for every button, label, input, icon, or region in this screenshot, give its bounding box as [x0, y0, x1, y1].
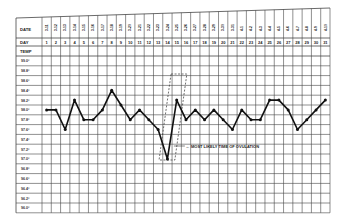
temp-tick-label: 99.0°: [21, 59, 30, 63]
data-point: [259, 118, 262, 121]
date-label: 3-17: [101, 24, 105, 31]
day-row-label: DAY: [20, 40, 29, 45]
date-label: 4-5: [277, 26, 281, 31]
date-label: 3-18: [110, 24, 114, 31]
temp-tick-label: 98.4°: [21, 89, 30, 93]
date-label: 3-25: [175, 24, 179, 31]
data-point: [82, 118, 85, 121]
data-point: [147, 118, 150, 121]
day-label: 19: [212, 40, 217, 45]
date-label: 3-16: [91, 24, 95, 31]
date-label: 3-29: [212, 24, 216, 31]
date-label: 3-13: [63, 24, 67, 31]
temp-tick-label: 96.2°: [21, 197, 30, 201]
day-label: 22: [240, 40, 245, 45]
ovulation-label: ← MOST LIKELY TIME OF OVULATION: [186, 144, 259, 149]
day-label: 8: [111, 40, 114, 45]
date-label: 3-27: [193, 24, 197, 31]
date-label: 4-4: [268, 26, 272, 31]
data-point: [268, 99, 271, 102]
temp-tick-label: 97.4°: [21, 138, 30, 142]
date-label: 3-20: [128, 24, 132, 31]
day-label: 28: [295, 40, 300, 45]
data-point: [203, 118, 206, 121]
day-label: 31: [323, 40, 328, 45]
day-label: 11: [137, 40, 142, 45]
temp-tick-label: 97.0°: [21, 157, 30, 161]
date-label: 3-30: [221, 24, 225, 31]
date-label: 4-7: [296, 26, 300, 31]
day-label: 3: [64, 40, 67, 45]
day-label: 21: [230, 40, 235, 45]
day-label: 17: [193, 40, 198, 45]
day-label: 25: [267, 40, 272, 45]
data-point: [92, 118, 95, 121]
date-label: 4-6: [286, 26, 290, 31]
date-label: 3-11: [45, 24, 49, 31]
day-label: 14: [165, 40, 170, 45]
day-label: 2: [55, 40, 58, 45]
temp-tick-label: 96.0°: [21, 206, 30, 210]
day-label: 27: [286, 40, 291, 45]
data-point: [194, 108, 197, 111]
day-label: 6: [92, 40, 95, 45]
date-label: 4-2: [249, 26, 253, 31]
data-point: [315, 108, 318, 111]
date-label: 4-3: [259, 26, 263, 31]
chart-grid: [16, 8, 330, 213]
date-label: 3-19: [119, 24, 123, 31]
day-label: 1: [46, 40, 49, 45]
date-label: 3-22: [147, 24, 151, 31]
data-point: [324, 99, 327, 102]
data-point: [222, 118, 225, 121]
temp-row-label: TEMP: [20, 49, 32, 54]
data-point: [54, 108, 57, 111]
temp-tick-label: 98.2°: [21, 99, 30, 103]
day-label: 16: [184, 40, 189, 45]
data-point: [138, 108, 141, 111]
data-point: [305, 118, 308, 121]
data-point: [110, 89, 113, 92]
day-label: 4: [73, 40, 76, 45]
date-label: 4-8: [305, 26, 309, 31]
temp-tick-label: 98.0°: [21, 108, 30, 112]
date-label: 3-15: [82, 24, 86, 31]
temp-tick-label: 97.6°: [21, 128, 30, 132]
y-axis-labels: 99.0°98.8°98.6°98.4°98.2°98.0°97.8°97.6°…: [21, 59, 30, 210]
data-point: [250, 118, 253, 121]
day-label: 9: [120, 40, 123, 45]
temp-tick-label: 96.4°: [21, 187, 30, 191]
temp-tick-label: 97.8°: [21, 118, 30, 122]
temp-tick-label: 96.8°: [21, 167, 30, 171]
day-label: 13: [156, 40, 161, 45]
day-label: 30: [314, 40, 319, 45]
data-point: [212, 108, 215, 111]
data-point: [45, 108, 48, 111]
day-label: 29: [305, 40, 310, 45]
data-point: [296, 128, 299, 131]
data-point: [240, 108, 243, 111]
day-label: 5: [83, 40, 86, 45]
day-label: 10: [128, 40, 133, 45]
data-point: [101, 108, 104, 111]
data-point: [231, 128, 234, 131]
day-label: 24: [258, 40, 263, 45]
data-point: [185, 118, 188, 121]
temp-tick-label: 98.8°: [21, 69, 30, 73]
chart-header: DATEDAYTEMP3-113-123-133-143-153-163-173…: [20, 24, 328, 54]
data-point: [157, 128, 160, 131]
date-label: 3-14: [73, 24, 77, 31]
data-point: [73, 99, 76, 102]
data-point: [64, 128, 67, 131]
day-label: 7: [101, 40, 104, 45]
date-label: 3-28: [203, 24, 207, 31]
date-label: 3-23: [156, 24, 160, 31]
day-label: 26: [277, 40, 282, 45]
bbt-chart: DATEDAYTEMP3-113-123-133-143-153-163-173…: [0, 0, 344, 218]
data-point: [129, 118, 132, 121]
data-point: [175, 99, 178, 102]
date-label: 3-21: [138, 24, 142, 31]
date-label: 4-1: [240, 26, 244, 31]
day-label: 18: [202, 40, 207, 45]
data-point: [166, 157, 169, 160]
